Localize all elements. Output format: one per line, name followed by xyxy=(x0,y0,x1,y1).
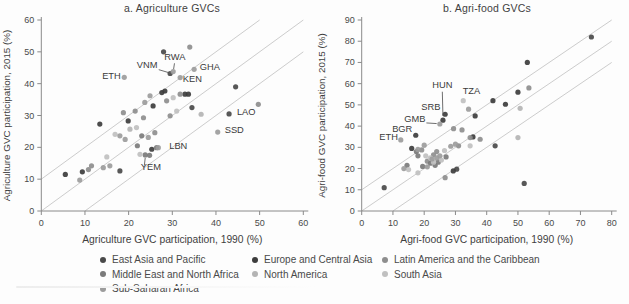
y-tick-label: 40 xyxy=(345,121,355,131)
country-annotation: GMB xyxy=(404,114,425,124)
annotation-leader-line xyxy=(426,123,436,124)
data-point xyxy=(422,143,427,148)
x-tick-label: 20 xyxy=(124,218,134,228)
data-point xyxy=(149,147,154,152)
y-tick-label: 40 xyxy=(24,79,34,89)
data-point xyxy=(525,60,530,65)
country-annotation: YEM xyxy=(141,162,161,172)
y-tick-label: 50 xyxy=(345,100,355,110)
x-tick-label: 0 xyxy=(39,218,44,228)
data-point xyxy=(429,156,434,161)
legend-item-eca: Europe and Central Asia xyxy=(252,254,372,265)
country-annotation: TZA xyxy=(463,86,481,96)
data-point xyxy=(425,164,430,169)
data-point xyxy=(126,118,131,123)
data-point xyxy=(164,98,169,103)
data-point xyxy=(442,148,447,153)
data-point xyxy=(434,155,439,160)
data-point xyxy=(112,132,117,137)
panel-b-title: b. Agri-food GVCs xyxy=(355,2,619,14)
y-tick-label: 50 xyxy=(24,47,34,57)
data-point xyxy=(142,100,147,105)
data-point xyxy=(187,44,192,49)
country-annotation: LBN xyxy=(169,141,187,151)
reference-line xyxy=(362,20,612,190)
data-point xyxy=(398,137,403,142)
data-point xyxy=(443,175,448,180)
data-point xyxy=(139,133,144,138)
data-point xyxy=(189,105,194,110)
country-annotation: KEN xyxy=(183,74,202,84)
y-tick-label: 20 xyxy=(24,142,34,152)
legend-item-eap: East Asia and Pacific xyxy=(100,254,205,265)
x-tick-label: 80 xyxy=(607,218,617,228)
country-annotation: SRB xyxy=(421,102,440,112)
data-point xyxy=(186,92,191,97)
panel-a-title: a. Agriculture GVCs xyxy=(40,2,304,14)
data-point xyxy=(478,137,483,142)
legend-label: Europe and Central Asia xyxy=(264,254,372,265)
data-point xyxy=(156,145,161,150)
x-tick-label: 50 xyxy=(255,218,265,228)
data-point xyxy=(123,137,128,142)
legend-label: Middle East and North Africa xyxy=(112,269,239,280)
data-point xyxy=(451,168,456,173)
x-tick-label: 30 xyxy=(167,218,177,228)
agrifood-scatter-plot: 010203040506070800102030405060708090HUNT… xyxy=(315,15,629,248)
x-tick-label: 20 xyxy=(419,218,429,228)
data-point xyxy=(453,142,458,147)
legend-label: East Asia and Pacific xyxy=(112,254,205,265)
data-point xyxy=(518,106,523,111)
y-axis-label: Agri-food GVC participation, 2015 (%) xyxy=(316,33,327,197)
y-axis-label: Agriculture GVC participation, 2015 (%) xyxy=(1,30,12,202)
country-annotation: ETH xyxy=(379,132,398,142)
data-point xyxy=(117,133,122,138)
legend-item-na: North America xyxy=(252,269,327,280)
y-tick-label: 0 xyxy=(29,206,34,216)
data-point xyxy=(409,146,414,151)
data-point xyxy=(215,129,220,134)
y-tick-label: 20 xyxy=(345,164,355,174)
y-tick-label: 10 xyxy=(24,174,34,184)
data-point xyxy=(415,153,420,158)
legend-label: South Asia xyxy=(394,269,442,280)
data-point xyxy=(80,169,85,174)
legend-item-sa: South Asia xyxy=(382,269,442,280)
reference-line xyxy=(393,62,612,211)
y-tick-label: 30 xyxy=(345,142,355,152)
y-tick-label: 60 xyxy=(24,15,34,25)
legend-dot xyxy=(382,257,388,263)
data-point xyxy=(401,166,406,171)
country-annotation: GHA xyxy=(200,62,221,72)
data-point xyxy=(127,127,132,132)
x-axis-label: Agri-food GVC participation, 1990 (%) xyxy=(400,234,573,245)
x-tick-label: 60 xyxy=(544,218,554,228)
data-point xyxy=(451,126,456,131)
annotation-leader-line xyxy=(159,70,169,73)
x-tick-label: 10 xyxy=(80,218,90,228)
data-point xyxy=(63,172,68,177)
y-tick-label: 0 xyxy=(350,206,355,216)
data-point xyxy=(146,135,151,140)
legend-dot xyxy=(100,271,106,277)
data-point xyxy=(382,185,387,190)
y-tick-label: 70 xyxy=(345,57,355,67)
data-point xyxy=(171,95,176,100)
data-point xyxy=(522,181,527,186)
data-point xyxy=(89,163,94,168)
data-point xyxy=(150,103,155,108)
data-point xyxy=(233,84,238,89)
country-annotation: SSD xyxy=(225,125,244,135)
panel-agriculture-gvcs: a. Agriculture GVCs 01020304050600102030… xyxy=(0,0,314,248)
data-point xyxy=(141,115,146,120)
country-annotation: RWA xyxy=(164,52,186,62)
data-point xyxy=(415,170,420,175)
y-tick-label: 30 xyxy=(24,111,34,121)
legend-dot xyxy=(100,257,106,263)
data-point xyxy=(162,88,167,93)
y-tick-label: 10 xyxy=(345,185,355,195)
data-point xyxy=(147,93,152,98)
data-point xyxy=(461,98,466,103)
legend-item-mena: Middle East and North Africa xyxy=(100,269,239,280)
x-tick-label: 50 xyxy=(513,218,523,228)
